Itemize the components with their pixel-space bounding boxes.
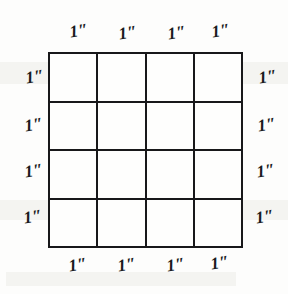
right-label-3: 1″: [252, 160, 280, 181]
left-label-3: 1″: [20, 160, 48, 181]
right-label-2: 1″: [253, 114, 281, 135]
left-label-1: 1″: [21, 66, 49, 87]
grid-cell: [147, 103, 195, 152]
right-label-4: 1″: [251, 206, 279, 227]
grid-cell: [50, 151, 98, 200]
grid-cell: [98, 103, 146, 152]
top-label-3: 1″: [163, 22, 191, 43]
left-label-4: 1″: [19, 206, 47, 227]
grid-cell: [98, 54, 146, 103]
bottom-label-1: 1″: [64, 254, 92, 275]
top-label-2: 1″: [114, 22, 142, 43]
grid-cell: [98, 200, 146, 249]
grid-cell: [147, 54, 195, 103]
top-label-1: 1″: [65, 20, 93, 41]
grid-cell: [98, 151, 146, 200]
geometry-figure: 1″ 1″ 1″ 1″ 1″ 1″ 1″ 1″ 1″ 1″ 1″ 1″ 1″ 1…: [0, 0, 288, 294]
grid-cell: [195, 54, 243, 103]
bottom-label-2: 1″: [113, 254, 141, 275]
grid-cell: [50, 103, 98, 152]
grid-cell: [50, 54, 98, 103]
grid-cell: [195, 151, 243, 200]
unit-square-grid: [48, 52, 243, 248]
bottom-label-4: 1″: [206, 252, 234, 273]
right-label-1: 1″: [254, 66, 282, 87]
top-label-4: 1″: [207, 20, 235, 41]
grid-cell: [195, 103, 243, 152]
grid-cell: [195, 200, 243, 249]
grid-cell: [147, 151, 195, 200]
grid-cell: [50, 200, 98, 249]
bottom-label-3: 1″: [162, 254, 190, 275]
grid-cell: [147, 200, 195, 249]
left-label-2: 1″: [20, 114, 48, 135]
